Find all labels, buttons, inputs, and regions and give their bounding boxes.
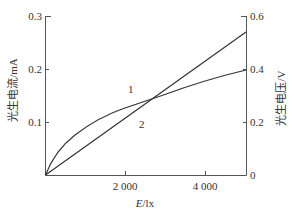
left-tick-label-0.3: 0.3 bbox=[28, 10, 42, 22]
curve-1-photovoltage bbox=[46, 70, 247, 175]
curve-2-label: 2 bbox=[139, 118, 145, 130]
right-tick-label-0: 0 bbox=[250, 169, 256, 181]
x-tick-label-2000: 2 000 bbox=[113, 180, 138, 192]
x-axis-unit: /lx bbox=[143, 197, 155, 209]
left-tick-label-0.2: 0.2 bbox=[28, 63, 42, 75]
axes bbox=[46, 16, 247, 176]
left-tick-label-0.1: 0.1 bbox=[28, 116, 42, 128]
chart: 1 2 0.3 0.2 0.1 0.6 0.4 0.2 0 2 000 4 00… bbox=[0, 0, 291, 217]
right-tick-label-0.4: 0.4 bbox=[250, 63, 264, 75]
x-axis-title: E/lx bbox=[135, 197, 155, 209]
left-axis-title: 光生电流/mA bbox=[6, 58, 19, 122]
right-tick-label-0.2: 0.2 bbox=[250, 116, 264, 128]
right-tick-label-0.6: 0.6 bbox=[250, 10, 264, 22]
right-axis-title: 光生电压/V bbox=[274, 70, 287, 125]
x-tick-label-4000: 4 000 bbox=[193, 180, 218, 192]
curve-2-photocurrent bbox=[46, 32, 247, 175]
curve-1-label: 1 bbox=[128, 83, 134, 95]
